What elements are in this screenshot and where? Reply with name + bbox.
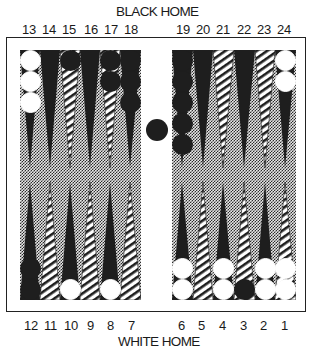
point-number-24: 24 xyxy=(277,22,291,37)
checker-white-point-1[interactable] xyxy=(275,258,296,279)
point-14[interactable] xyxy=(40,50,60,168)
checker-white-point-2[interactable] xyxy=(255,258,276,279)
checker-white-point-4[interactable] xyxy=(213,279,234,300)
checker-black-point-18[interactable] xyxy=(120,92,141,113)
point-20[interactable] xyxy=(193,50,213,168)
point-number-18: 18 xyxy=(124,22,138,37)
checker-white-point-1[interactable] xyxy=(275,279,296,300)
checker-black-on-bar[interactable] xyxy=(146,119,168,141)
point-number-4: 4 xyxy=(219,318,226,333)
point-5[interactable] xyxy=(193,182,213,300)
home-board xyxy=(172,50,296,300)
black-home-label: BLACK HOME xyxy=(116,4,199,19)
checker-black-point-19[interactable] xyxy=(172,71,193,92)
point-16[interactable] xyxy=(80,50,100,168)
point-7[interactable] xyxy=(120,182,141,300)
point-number-2: 2 xyxy=(260,318,267,333)
point-number-1: 1 xyxy=(281,318,288,333)
point-21[interactable] xyxy=(213,50,234,168)
checker-black-point-18[interactable] xyxy=(120,71,141,92)
point-number-3: 3 xyxy=(240,318,247,333)
point-number-8: 8 xyxy=(107,318,114,333)
checker-black-point-15[interactable] xyxy=(60,50,81,71)
point-number-22: 22 xyxy=(237,22,251,37)
checker-white-point-24[interactable] xyxy=(275,71,296,92)
checker-white-point-2[interactable] xyxy=(255,279,276,300)
point-number-20: 20 xyxy=(196,22,210,37)
outer-board xyxy=(20,50,141,300)
checker-black-point-17[interactable] xyxy=(100,71,121,92)
point-number-7: 7 xyxy=(128,318,135,333)
checker-black-point-19[interactable] xyxy=(172,113,193,134)
checker-white-point-13[interactable] xyxy=(20,92,41,113)
point-number-14: 14 xyxy=(42,22,56,37)
checker-black-point-19[interactable] xyxy=(172,92,193,113)
point-22[interactable] xyxy=(234,50,255,168)
checker-black-point-19[interactable] xyxy=(172,134,193,155)
checker-black-point-12[interactable] xyxy=(20,279,41,300)
checker-black-point-19[interactable] xyxy=(172,50,193,71)
point-number-23: 23 xyxy=(257,22,271,37)
checker-white-point-6[interactable] xyxy=(172,279,193,300)
point-number-15: 15 xyxy=(62,22,76,37)
checker-white-point-13[interactable] xyxy=(20,71,41,92)
point-number-10: 10 xyxy=(64,318,78,333)
checker-white-point-10[interactable] xyxy=(60,279,81,300)
point-number-13: 13 xyxy=(22,22,36,37)
point-number-21: 21 xyxy=(216,22,230,37)
checker-black-point-12[interactable] xyxy=(20,258,41,279)
point-number-11: 11 xyxy=(44,318,57,333)
point-11[interactable] xyxy=(40,182,60,300)
checker-black-point-18[interactable] xyxy=(120,50,141,71)
checker-white-point-24[interactable] xyxy=(275,50,296,71)
checker-white-point-4[interactable] xyxy=(213,258,234,279)
point-number-12: 12 xyxy=(24,318,38,333)
white-home-label: WHITE HOME xyxy=(118,334,200,349)
point-number-17: 17 xyxy=(104,22,118,37)
checker-black-point-17[interactable] xyxy=(100,50,121,71)
point-number-6: 6 xyxy=(178,318,185,333)
checker-white-point-6[interactable] xyxy=(172,258,193,279)
point-23[interactable] xyxy=(255,50,275,168)
point-number-16: 16 xyxy=(84,22,98,37)
checker-white-point-13[interactable] xyxy=(20,50,41,71)
checker-black-point-3[interactable] xyxy=(234,279,255,300)
point-number-19: 19 xyxy=(176,22,190,37)
point-9[interactable] xyxy=(80,182,100,300)
point-number-5: 5 xyxy=(198,318,205,333)
point-number-9: 9 xyxy=(87,318,94,333)
checker-white-point-8[interactable] xyxy=(100,279,121,300)
